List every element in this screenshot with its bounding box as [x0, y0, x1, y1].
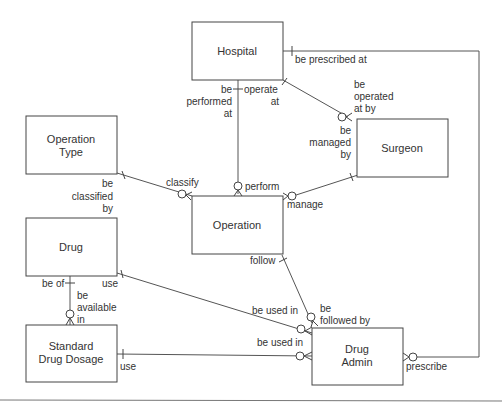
rel-label: use: [102, 278, 119, 289]
many-mark: [238, 190, 242, 196]
entity-hospital[interactable]: Hospital: [192, 22, 283, 80]
rel-label: use: [120, 361, 137, 372]
entity-label: Hospital: [217, 45, 257, 57]
rel-label: by: [102, 203, 113, 214]
rel-label: prescribe: [406, 361, 448, 372]
er-diagram: Hospital Surgeon Operation Type Operatio…: [0, 0, 502, 409]
rel-label: at by: [354, 103, 376, 114]
rel-label: available: [77, 302, 117, 313]
rel-label: be: [77, 290, 89, 301]
entity-label: Surgeon: [381, 142, 423, 154]
rel-label: be: [320, 303, 332, 314]
many-mark: [305, 327, 312, 331]
rel-label: managed: [309, 137, 351, 148]
rel-hospital-surgeon: [283, 80, 348, 117]
zero-mark: [307, 313, 315, 321]
many-mark: [346, 113, 352, 117]
rel-label: manage: [287, 199, 324, 210]
many-mark: [234, 190, 238, 196]
entity-drug-admin[interactable]: Drug Admin: [312, 328, 403, 385]
rel-label: be: [221, 84, 233, 95]
rel-label: be used in: [257, 337, 303, 348]
one-mark: [279, 258, 287, 262]
rel-label: classify: [166, 177, 199, 188]
rel-label: be prescribed at: [295, 54, 367, 65]
rel-sdd-drugadmin: [117, 354, 312, 356]
entity-label: Standard: [49, 340, 94, 352]
rel-label: by: [340, 149, 351, 160]
rel-label: followed by: [320, 315, 370, 326]
many-mark: [70, 318, 74, 325]
entity-label: Operation: [47, 133, 95, 145]
divider: [0, 400, 502, 401]
entity-operation-type[interactable]: Operation Type: [26, 116, 117, 174]
many-mark: [283, 193, 288, 196]
rel-label: operate: [244, 84, 278, 95]
zero-mark: [338, 113, 346, 121]
rel-label: be of: [42, 278, 64, 289]
entity-standard-drug-dosage[interactable]: Standard Drug Dosage: [26, 325, 117, 382]
entity-label: Drug: [345, 343, 369, 355]
rel-label: be: [354, 79, 366, 90]
zero-mark: [409, 353, 417, 361]
many-mark: [346, 117, 352, 121]
many-mark: [304, 352, 312, 356]
rel-label: classified: [72, 191, 113, 202]
rel-label: at: [224, 108, 233, 119]
rel-label: be: [102, 178, 114, 189]
rel-label: operated: [354, 91, 393, 102]
entity-surgeon[interactable]: Surgeon: [357, 119, 448, 177]
entity-drug[interactable]: Drug: [26, 218, 117, 276]
entity-label: Drug: [59, 241, 83, 253]
entity-operation[interactable]: Operation: [192, 196, 283, 254]
entity-label: Drug Dosage: [39, 353, 104, 365]
rel-label: follow: [250, 255, 276, 266]
many-mark: [313, 321, 318, 326]
entity-label: Operation: [213, 219, 261, 231]
rel-label: performed: [186, 96, 232, 107]
zero-mark: [296, 352, 304, 360]
zero-mark: [297, 325, 305, 333]
zero-mark: [66, 310, 74, 318]
rel-label: in: [77, 314, 85, 325]
rel-label: be: [340, 125, 352, 136]
rel-drug-drugadmin: [117, 273, 312, 333]
entity-label: Type: [59, 146, 83, 158]
entity-label: Admin: [341, 356, 372, 368]
many-mark: [304, 356, 312, 360]
many-mark: [403, 353, 409, 357]
rel-label: perform: [245, 181, 279, 192]
rel-label: at: [271, 96, 280, 107]
rel-label: be used in: [252, 305, 298, 316]
zero-mark: [234, 182, 242, 190]
many-mark: [186, 192, 192, 195]
rel-surgeon-operation: [293, 175, 358, 196]
many-mark: [66, 318, 70, 325]
zero-mark: [178, 190, 186, 198]
